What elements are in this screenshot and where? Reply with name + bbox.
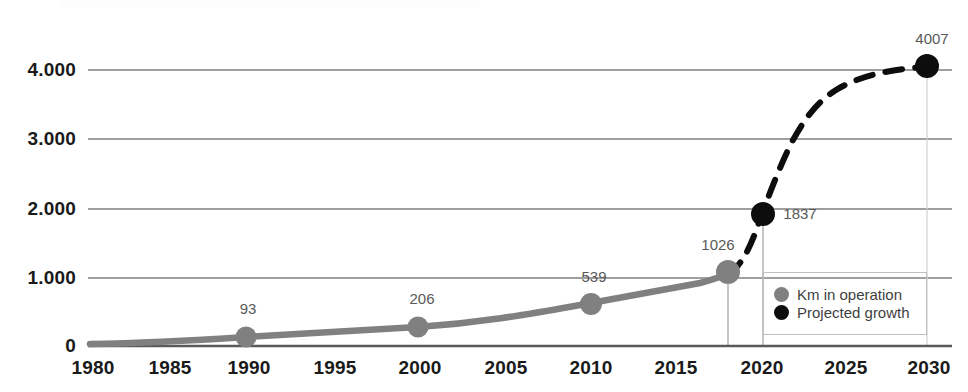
- legend-marker-circle-icon: [774, 305, 789, 320]
- y-tick-2000: 2.000: [0, 198, 76, 220]
- data-label-2020: 1837: [783, 205, 816, 222]
- series-line-km-in-operation: [90, 274, 728, 344]
- data-point-2000: [408, 317, 429, 338]
- x-tick-2025: 2025: [824, 357, 867, 379]
- data-point-2010: [580, 293, 602, 315]
- y-tick-1000: 1.000: [0, 267, 76, 289]
- legend-item-km-in-operation[interactable]: Km in operation: [774, 287, 914, 302]
- series-line-projected-growth: [728, 67, 925, 274]
- y-tick-4000: 4.000: [0, 59, 76, 81]
- x-tick-2015: 2015: [654, 357, 697, 379]
- data-point-2020: [751, 202, 775, 226]
- x-tick-1980: 1980: [71, 357, 114, 379]
- data-label-1990: 93: [240, 300, 257, 317]
- x-tick-2005: 2005: [484, 357, 527, 379]
- data-label-2030: 4007: [915, 30, 948, 47]
- legend-item-projected-growth[interactable]: Projected growth: [774, 305, 914, 320]
- chart-legend: Km in operation Projected growth: [763, 272, 927, 335]
- y-tick-0: 0: [0, 335, 76, 357]
- data-point-2030: [915, 54, 939, 78]
- x-tick-2020: 2020: [740, 357, 783, 379]
- x-tick-1990: 1990: [227, 357, 270, 379]
- x-tick-1995: 1995: [313, 357, 356, 379]
- x-tick-2000: 2000: [398, 357, 441, 379]
- chart-container: 4.000 3.000 2.000 1.000 0 1980 1985 1990…: [0, 0, 968, 392]
- data-label-2000: 206: [409, 290, 434, 307]
- x-tick-2010: 2010: [569, 357, 612, 379]
- data-label-2018: 1026: [701, 236, 734, 253]
- data-point-2018: [716, 260, 740, 284]
- y-tick-3000: 3.000: [0, 128, 76, 150]
- legend-label-km-in-operation: Km in operation: [797, 287, 902, 302]
- x-tick-2030: 2030: [907, 357, 950, 379]
- legend-label-projected-growth: Projected growth: [797, 305, 910, 320]
- legend-marker-circle-icon: [774, 287, 789, 302]
- data-label-2010: 539: [581, 268, 606, 285]
- data-point-1990: [236, 327, 257, 348]
- x-tick-1985: 1985: [148, 357, 191, 379]
